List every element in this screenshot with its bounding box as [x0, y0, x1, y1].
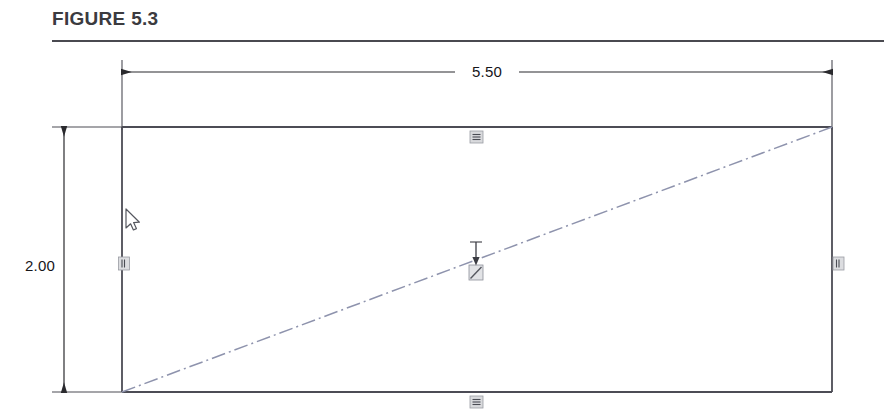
midpoint-relation-center-icon[interactable] — [469, 265, 483, 280]
vertical-relation-left-icon[interactable] — [119, 257, 130, 270]
vertical-dimension[interactable]: 2.00 — [25, 127, 64, 392]
horizontal-relation-bottom-icon[interactable] — [470, 396, 483, 408]
cad-drawing-canvas[interactable]: 5.50 2.00 — [0, 46, 884, 418]
relation-markers[interactable] — [119, 131, 845, 408]
horizontal-relation-top-icon[interactable] — [470, 131, 483, 143]
extension-lines — [52, 60, 832, 392]
figure-container: FIGURE 5.3 5.50 — [0, 0, 884, 418]
horizontal-dimension[interactable]: 5.50 — [122, 63, 832, 80]
mouse-cursor — [126, 209, 139, 230]
horizontal-dimension-value: 5.50 — [472, 63, 502, 80]
vertical-relation-right-icon[interactable] — [833, 257, 844, 270]
vertical-dimension-value: 2.00 — [25, 257, 55, 274]
figure-title: FIGURE 5.3 — [52, 8, 158, 30]
title-divider — [52, 40, 884, 42]
